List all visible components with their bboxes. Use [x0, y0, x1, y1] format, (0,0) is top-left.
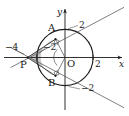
radius-ob — [56, 58, 66, 76]
tick-label-x-pos-two: 2 — [95, 60, 101, 69]
x-axis-label: x — [119, 60, 124, 69]
tick-label-y-neg-two: −2 — [81, 84, 94, 93]
leader-y-neg-two — [69, 87, 81, 90]
point-label-b: B — [48, 78, 55, 88]
point-label-p: P — [20, 60, 27, 70]
point-marker-a — [54, 38, 56, 40]
tick-label-x-neg-two: −2 — [43, 43, 56, 52]
geometry-figure: y x O A B P −4 −2 2 2 −2 — [0, 0, 129, 116]
tick-label-y-pos-two: 2 — [79, 21, 85, 30]
y-axis-label: y — [57, 8, 62, 17]
leader-y-pos-two — [68, 26, 78, 29]
figure-canvas — [0, 0, 129, 116]
point-label-a: A — [48, 23, 55, 33]
radius-oa — [56, 39, 66, 57]
tick-label-x-neg-four: −4 — [5, 43, 18, 52]
origin-label: O — [67, 59, 75, 69]
